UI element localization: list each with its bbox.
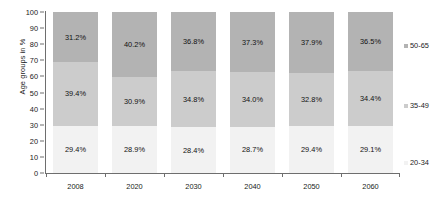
x-axis-tick-label: 2060 (341, 182, 401, 191)
bar-segment[interactable]: 31.2% (53, 12, 98, 62)
bar-segment-label: 34.8% (183, 95, 204, 104)
bar-segment[interactable]: 40.2% (112, 12, 157, 77)
bar-group[interactable]: 36.5%34.4%29.1% (348, 12, 393, 173)
y-axis-tick-label: 30 (8, 120, 38, 129)
legend-label: 20-34 (410, 158, 429, 167)
bar-segment[interactable]: 29.1% (348, 126, 393, 173)
bar-segment-label: 37.3% (242, 38, 263, 47)
bar-stack: 31.2%39.4%29.4% (53, 12, 98, 173)
bar-segment[interactable]: 32.8% (289, 73, 334, 126)
y-axis-tick-mark (40, 44, 44, 45)
x-axis-tick-mark (341, 173, 342, 177)
bar-segment[interactable]: 37.9% (289, 12, 334, 73)
x-axis-tick-label: 2040 (223, 182, 283, 191)
y-axis-tick-mark (40, 124, 44, 125)
bar-segment-label: 29.1% (360, 145, 381, 154)
x-axis-tick-labels: 200820202030204020502060 (46, 173, 400, 199)
y-axis-tick-labels: 1009080706050403020100 (0, 0, 46, 201)
bar-segment-label: 28.4% (183, 146, 204, 155)
bar-segment[interactable]: 30.9% (112, 77, 157, 127)
bar-stack: 36.8%34.8%28.4% (171, 12, 216, 173)
y-axis-tick-mark (40, 28, 44, 29)
bar-segment[interactable]: 34.0% (230, 72, 275, 127)
y-axis-tick-label: 90 (8, 24, 38, 33)
legend-swatch-icon (404, 104, 408, 108)
x-axis-tick-label: 2030 (164, 182, 224, 191)
bar-stack: 37.9%32.8%29.4% (289, 12, 334, 173)
y-axis-tick-label: 70 (8, 56, 38, 65)
legend-swatch-icon (404, 161, 408, 165)
bar-group[interactable]: 37.3%34.0%28.7% (230, 12, 275, 173)
x-axis-tick-label: 2020 (105, 182, 165, 191)
y-axis-tick-label: 40 (8, 104, 38, 113)
y-axis-tick-label: 20 (8, 136, 38, 145)
bar-group[interactable]: 36.8%34.8%28.4% (171, 12, 216, 173)
bar-segment-label: 40.2% (124, 40, 145, 49)
y-axis-tick-mark (40, 140, 44, 141)
bar-segment-label: 34.4% (360, 94, 381, 103)
bar-segment[interactable]: 28.9% (112, 126, 157, 173)
x-axis-tick-mark (105, 173, 106, 177)
bar-segment[interactable]: 39.4% (53, 62, 98, 125)
bar-segment-label: 28.7% (242, 145, 263, 154)
stacked-bar-chart: Age groups in % 1009080706050403020100 3… (0, 0, 439, 201)
bar-segment-label: 39.4% (65, 89, 86, 98)
bar-segment-label: 31.2% (65, 33, 86, 42)
bar-segment[interactable]: 34.4% (348, 71, 393, 126)
y-axis-tick-label: 0 (8, 169, 38, 178)
y-axis-tick-mark (40, 108, 44, 109)
bar-stack: 40.2%30.9%28.9% (112, 12, 157, 173)
x-axis-tick-mark (164, 173, 165, 177)
bar-segment-label: 37.9% (301, 38, 322, 47)
y-axis-tick-mark (40, 60, 44, 61)
y-axis-tick-mark (40, 12, 44, 13)
plot-area: 31.2%39.4%29.4%40.2%30.9%28.9%36.8%34.8%… (46, 12, 400, 173)
chart-legend: 50-6535-4920-34 (404, 0, 439, 201)
x-axis-tick-label: 2050 (282, 182, 342, 191)
bar-segment-label: 34.0% (242, 95, 263, 104)
legend-item[interactable]: 35-49 (404, 101, 429, 110)
bar-stack: 36.5%34.4%29.1% (348, 12, 393, 173)
bar-stack: 37.3%34.0%28.7% (230, 12, 275, 173)
x-axis-tick-mark (223, 173, 224, 177)
y-axis-tick-mark (40, 76, 44, 77)
legend-swatch-icon (404, 44, 408, 48)
bar-segment-label: 29.4% (301, 145, 322, 154)
bar-segment[interactable]: 34.8% (171, 71, 216, 127)
y-axis-tick-label: 50 (8, 88, 38, 97)
y-axis-tick-label: 100 (8, 8, 38, 17)
y-axis-tick-mark (40, 92, 44, 93)
bar-segment[interactable]: 37.3% (230, 12, 275, 72)
bar-segment-label: 28.9% (124, 145, 145, 154)
x-axis-tick-mark (282, 173, 283, 177)
x-axis-tick-mark (46, 173, 47, 177)
bar-segment[interactable]: 29.4% (289, 126, 334, 173)
x-axis-tick-mark (399, 173, 400, 177)
y-axis-tick-mark (40, 173, 44, 174)
y-axis-tick-label: 60 (8, 72, 38, 81)
legend-item[interactable]: 20-34 (404, 158, 429, 167)
y-axis-tick-mark (40, 156, 44, 157)
legend-item[interactable]: 50-65 (404, 41, 429, 50)
bar-group[interactable]: 40.2%30.9%28.9% (112, 12, 157, 173)
bar-segment[interactable]: 29.4% (53, 126, 98, 173)
y-axis-tick-label: 80 (8, 40, 38, 49)
bar-segment-label: 36.8% (183, 37, 204, 46)
y-axis-tick-label: 10 (8, 152, 38, 161)
bar-segment-label: 30.9% (124, 97, 145, 106)
legend-label: 50-65 (410, 41, 429, 50)
x-axis-tick-label: 2008 (46, 182, 106, 191)
bar-segment-label: 29.4% (65, 145, 86, 154)
bar-segment[interactable]: 36.8% (171, 12, 216, 71)
bar-segment-label: 36.5% (360, 37, 381, 46)
bar-segment[interactable]: 28.4% (171, 127, 216, 173)
bar-segment-label: 32.8% (301, 95, 322, 104)
legend-label: 35-49 (410, 101, 429, 110)
bar-group[interactable]: 31.2%39.4%29.4% (53, 12, 98, 173)
bar-group[interactable]: 37.9%32.8%29.4% (289, 12, 334, 173)
bar-segment[interactable]: 36.5% (348, 12, 393, 71)
bar-segment[interactable]: 28.7% (230, 127, 275, 173)
